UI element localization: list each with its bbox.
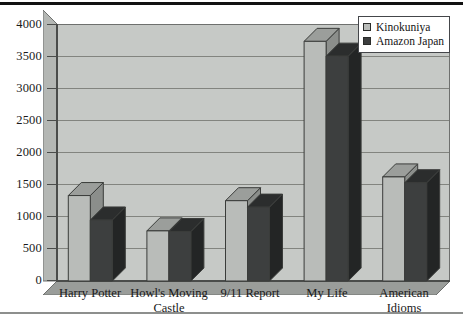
bar-front-face	[226, 201, 248, 281]
bar-front-face	[147, 231, 169, 281]
legend-label: Kinokuniya	[376, 21, 430, 33]
legend-item-kinokuniya[interactable]: Kinokuniya	[363, 20, 445, 34]
bar-amazon-japan[interactable]	[248, 194, 283, 281]
bar-front-face	[68, 196, 90, 281]
bar-amazon-japan[interactable]	[169, 219, 204, 281]
legend-label: Amazon Japan	[376, 35, 444, 47]
x-axis-tick-label: Harry Potter	[46, 286, 134, 301]
bar-front-face	[405, 183, 427, 281]
x-axis-tick-label: American Idioms	[360, 286, 448, 316]
bar-front-face	[248, 207, 270, 281]
bar-front-face	[383, 177, 405, 281]
bar-front-face	[169, 232, 191, 281]
chart-legend: Kinokuniya Amazon Japan	[358, 16, 450, 53]
bar-side-face	[427, 170, 440, 281]
x-axis-tick-label: My Life	[288, 286, 366, 301]
x-axis-tick-label: 9/11 Report	[208, 286, 292, 301]
legend-swatch-icon	[363, 37, 371, 45]
bar-front-face	[304, 41, 326, 281]
bar-amazon-japan[interactable]	[90, 207, 125, 281]
legend-item-amazon-japan[interactable]: Amazon Japan	[363, 34, 445, 48]
x-axis-tick-label: Howl's Moving Castle	[123, 286, 215, 316]
legend-swatch-icon	[363, 23, 371, 31]
bar-front-face	[326, 56, 348, 281]
bar-front-face	[90, 220, 112, 281]
bar-amazon-japan[interactable]	[405, 170, 440, 281]
bar-side-face	[348, 43, 361, 281]
bar-chart: 4000 3500 3000 2500 2000 1500 1000 500 0…	[0, 0, 463, 321]
bar-amazon-japan[interactable]	[326, 43, 361, 281]
bar-side-face	[270, 194, 283, 281]
chart-figure: 4000 3500 3000 2500 2000 1500 1000 500 0…	[0, 0, 463, 321]
